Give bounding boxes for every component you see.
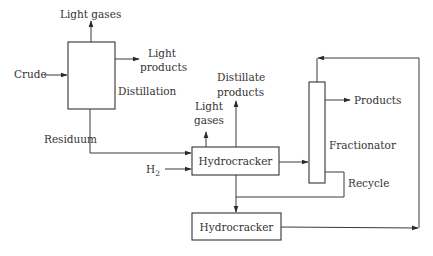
- hc-light-gases-label-line2: gases: [194, 114, 224, 126]
- distillate-label-line2: products: [217, 86, 264, 98]
- recycle-label: Recycle: [348, 177, 389, 189]
- h2-label: H2: [146, 163, 160, 178]
- fractionator-label: Fractionator: [329, 139, 397, 151]
- distillation-label: Distillation: [118, 85, 177, 97]
- fractionator-unit: [309, 82, 325, 183]
- process-flow-diagram: Distillation Crude Light gases Light pro…: [0, 0, 433, 256]
- hc2-output-arrow: [281, 227, 418, 228]
- residuum-label: Residuum: [44, 133, 97, 145]
- light-products-label-line1: Light: [148, 47, 177, 59]
- crude-label: Crude: [14, 68, 47, 80]
- hydrocracker-2-label: Hydrocracker: [200, 221, 275, 233]
- hydrocracker-1-label: Hydrocracker: [199, 155, 274, 167]
- products-label: Products: [354, 94, 401, 106]
- distillate-label-line1: Distillate: [217, 71, 265, 83]
- distillation-unit: [68, 42, 115, 109]
- recycle-line: [236, 172, 344, 197]
- residuum-line: [90, 109, 191, 153]
- light-products-label-line2: products: [140, 61, 187, 73]
- light-gases-label: Light gases: [60, 8, 121, 20]
- hc-light-gases-label-line1: Light: [195, 100, 224, 112]
